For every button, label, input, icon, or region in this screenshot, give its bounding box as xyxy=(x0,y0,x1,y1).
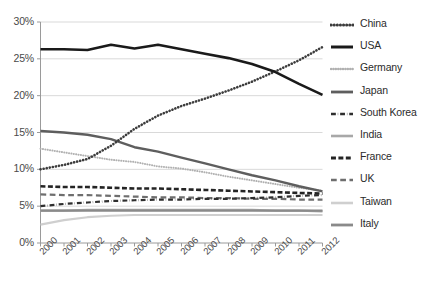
legend-item-china[interactable]: China xyxy=(330,12,436,34)
y-axis-tick-label: 20% xyxy=(0,89,34,101)
legend-item-label: USA xyxy=(360,39,381,51)
chart-container: 30%25%20%15%10%5%0% 20002001200220032004… xyxy=(0,0,437,282)
legend-key-swatch xyxy=(330,195,354,207)
legend-item-taiwan[interactable]: Taiwan xyxy=(330,190,436,212)
legend-item-label: Taiwan xyxy=(360,195,392,207)
series-line-taiwan xyxy=(41,215,323,225)
legend-item-india[interactable]: India xyxy=(330,123,436,145)
legend-item-label: Japan xyxy=(360,84,388,96)
y-axis-tick-label: 5% xyxy=(0,199,34,211)
legend-item-label: UK xyxy=(360,172,374,184)
legend-key-swatch xyxy=(330,61,354,73)
y-axis-tick-label: 0% xyxy=(0,236,34,248)
legend-item-label: India xyxy=(360,128,382,140)
legend-item-label: France xyxy=(360,150,392,162)
chart-legend: ChinaUSAGermanyJapanSouth KoreaIndiaFran… xyxy=(330,12,436,234)
legend-key-swatch xyxy=(330,39,354,51)
legend-item-label: China xyxy=(360,17,387,29)
legend-key-swatch xyxy=(330,106,354,118)
y-axis-tick-label: 10% xyxy=(0,162,34,174)
legend-key-swatch xyxy=(330,172,354,184)
legend-item-italy[interactable]: Italy xyxy=(330,212,436,234)
legend-item-japan[interactable]: Japan xyxy=(330,79,436,101)
legend-item-south-korea[interactable]: South Korea xyxy=(330,101,436,123)
y-axis-tick-label: 15% xyxy=(0,126,34,138)
legend-item-uk[interactable]: UK xyxy=(330,167,436,189)
legend-item-label: Germany xyxy=(360,61,402,73)
legend-key-swatch xyxy=(330,84,354,96)
series-line-china xyxy=(41,47,323,169)
legend-key-swatch xyxy=(330,150,354,162)
series-line-france xyxy=(41,186,323,193)
legend-item-label: Italy xyxy=(360,217,379,229)
y-axis-tick-label: 30% xyxy=(0,15,34,27)
legend-key-swatch xyxy=(330,217,354,229)
legend-item-label: South Korea xyxy=(360,106,417,118)
legend-key-swatch xyxy=(330,128,354,140)
legend-item-germany[interactable]: Germany xyxy=(330,56,436,78)
y-axis-tick-label: 25% xyxy=(0,52,34,64)
legend-key-swatch xyxy=(330,17,354,29)
legend-item-usa[interactable]: USA xyxy=(330,34,436,56)
legend-item-france[interactable]: France xyxy=(330,145,436,167)
